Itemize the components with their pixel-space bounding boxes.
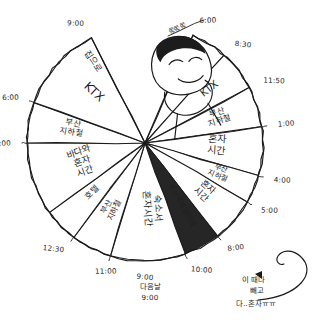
time-tick-10: 12:30 <box>42 243 65 254</box>
time-tick-9: 11:00 <box>95 266 117 275</box>
time-tick-5: 5:00 <box>261 205 278 215</box>
time-tick-8: 9:00 <box>136 271 154 282</box>
time-tick-11: 4:00 <box>0 138 11 148</box>
time-tick-7: 10:00 <box>191 264 214 275</box>
time-tick-3: 1:00 <box>277 118 295 128</box>
time-tick-2: 11:50 <box>263 75 285 85</box>
time-tick-13: 9:00 <box>67 18 85 28</box>
callout-line-2: 빼고 <box>250 286 264 295</box>
pie-chart-svg: 지하철KTX부산지하철혼자시간부산지하철혼자시간부산국제영화제숙소서혼자시간부산… <box>0 0 329 324</box>
time-tick-6: 8:00 <box>227 242 245 253</box>
next-day-label: 다음날 <box>140 282 161 291</box>
pie-slice-label-3: 혼자시간 <box>207 132 227 156</box>
next-day-time: 9:00 <box>142 293 159 302</box>
time-tick-0: 6:00 <box>199 15 216 25</box>
callout-line-1: 이 때나 <box>242 275 265 284</box>
time-tick-12: 6:00 <box>2 93 19 103</box>
chart-canvas: 지하철KTX부산지하철혼자시간부산지하철혼자시간부산국제영화제숙소서혼자시간부산… <box>0 0 329 324</box>
time-tick-4: 4:00 <box>274 175 291 184</box>
label-line: 시간 <box>207 144 226 156</box>
callout-line-3: 다..혼자ㅠㅠ <box>236 299 276 308</box>
label-line: 혼자 <box>208 132 227 145</box>
time-tick-1: 8:30 <box>234 39 252 50</box>
